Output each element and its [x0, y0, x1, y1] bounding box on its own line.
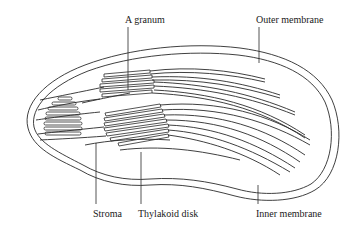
chloroplast-illustration — [0, 0, 357, 234]
granum-center — [100, 70, 154, 97]
chloroplast-diagram: A granum Outer membrane Stroma Thylakoid… — [0, 0, 357, 234]
label-thylakoid-disk: Thylakoid disk — [138, 208, 198, 219]
label-granum: A granum — [125, 14, 165, 25]
label-outer-membrane: Outer membrane — [256, 14, 323, 25]
label-stroma: Stroma — [93, 208, 122, 219]
label-inner-membrane: Inner membrane — [256, 208, 322, 219]
